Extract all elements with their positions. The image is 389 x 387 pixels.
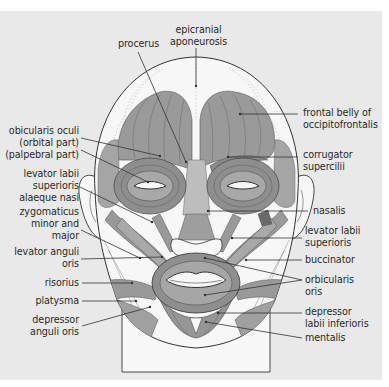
label-zygomaticus: zygomaticusminor andmajor: [19, 206, 79, 242]
label-platysma: platysma: [36, 295, 80, 307]
label-frontal-belly: frontal belly ofoccipitofrontalis: [303, 107, 378, 131]
label-procerus: procerus: [118, 38, 159, 50]
label-orbicularis-oculi: obicularis oculi(orbital part)(palpebral…: [5, 125, 79, 161]
label-depressor-anguli-oris: depressoranguli oris: [30, 314, 79, 338]
label-orbicularis-oris: orbicularisoris: [305, 274, 354, 298]
label-epicranial-aponeurosis: epicranialaponeurosis: [170, 24, 227, 48]
orbicularis-oris: [152, 253, 240, 313]
label-corrugator-supercilii: corrugatorsupercilii: [303, 149, 353, 173]
label-nasalis: nasalis: [313, 205, 345, 217]
label-levator-labii-superioris: levator labiisuperioris: [305, 225, 360, 249]
label-buccinator: buccinator: [305, 254, 355, 266]
label-depressor-labii-inferioris: depressorlabii inferioris: [305, 306, 369, 330]
label-levator-anguli-oris: levator angulioris: [14, 246, 79, 270]
label-levator-labii-alaeque-nasi: levator labiisuperiorisalaeque nasi: [19, 168, 79, 204]
label-risorius: risorius: [45, 277, 79, 289]
label-mentalis: mentalis: [305, 332, 346, 344]
